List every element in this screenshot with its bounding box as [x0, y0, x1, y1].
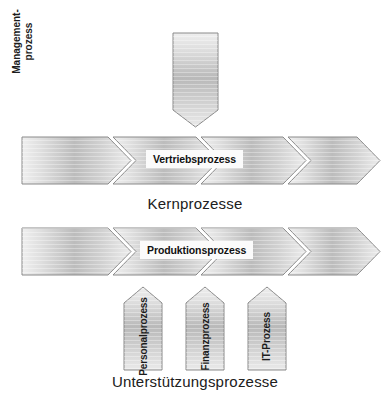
- core-row-caption: Kernprozesse: [0, 195, 390, 212]
- second-row-callout[interactable]: Produktionsprozess: [140, 241, 253, 259]
- core-arrow-1[interactable]: [22, 137, 131, 184]
- support-label-it-prozess: IT-Prozess: [248, 303, 286, 370]
- support-label-finanzprozess: Finanzprozess: [186, 303, 224, 370]
- management-arrow[interactable]: [173, 33, 218, 127]
- management-label-line2: prozess: [23, 22, 34, 60]
- management-label-line1: Management-: [11, 9, 22, 73]
- core-row-callout[interactable]: Vertriebsprozess: [146, 150, 243, 168]
- second-arrow-1[interactable]: [22, 228, 131, 275]
- support-row-caption: Unterstützungsprozesse: [0, 373, 390, 390]
- support-label-personalprozess: Personalprozess: [124, 303, 162, 370]
